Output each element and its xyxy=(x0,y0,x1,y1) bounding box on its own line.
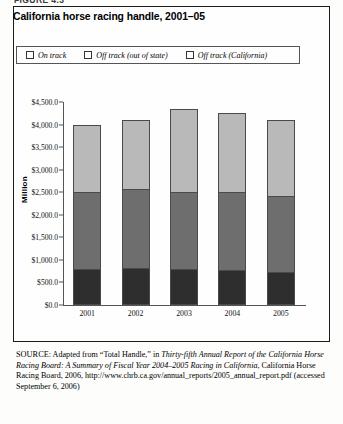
source-text-1: Adapted from “Total Handle,” in xyxy=(51,350,161,359)
bar-segment xyxy=(73,269,101,305)
figure-number-text: FIGURE 4.3 xyxy=(14,0,94,5)
x-axis-tick-label: 2005 xyxy=(251,309,311,318)
y-axis-tick-mark xyxy=(59,237,63,238)
legend-item-label: On track xyxy=(38,51,66,60)
chart-legend: On track Off track (out of state) Off tr… xyxy=(16,46,300,64)
source-note: SOURCE: Adapted from “Total Handle,” in … xyxy=(16,350,328,392)
y-axis-tick-mark xyxy=(59,214,63,215)
source-label: SOURCE: xyxy=(16,350,51,359)
bar-segment xyxy=(73,125,101,193)
bar-segment xyxy=(218,270,246,305)
legend-swatch-icon xyxy=(186,51,194,59)
bar-segment xyxy=(170,109,198,192)
bar-group xyxy=(267,120,295,305)
bar-group xyxy=(218,113,246,305)
y-axis-tick-mark xyxy=(59,169,63,170)
legend-item-label: Off track (California) xyxy=(198,51,267,60)
y-axis-tick-mark xyxy=(59,305,63,306)
legend-swatch-icon xyxy=(84,51,92,59)
bar-segment xyxy=(218,192,246,270)
bar-segment xyxy=(267,196,295,272)
bar-segment xyxy=(267,120,295,196)
legend-item-off-track-california: Off track (California) xyxy=(186,51,267,60)
chart-title: California horse racing handle, 2001–05 xyxy=(13,11,205,22)
legend-item-label: Off track (out of state) xyxy=(96,51,168,60)
bar-segment xyxy=(122,189,150,267)
y-axis-tick-mark xyxy=(59,259,63,260)
y-axis-title: Million xyxy=(20,176,29,203)
figure-number-label: FIGURE 4.3 xyxy=(14,0,94,5)
x-axis-line xyxy=(63,305,306,306)
bar-segment xyxy=(73,192,101,269)
bar-group xyxy=(122,120,150,305)
figure-root: FIGURE 4.3 California horse racing handl… xyxy=(0,0,343,424)
y-axis-tick-mark xyxy=(59,102,63,103)
bar-segment xyxy=(218,113,246,191)
bar-segment xyxy=(122,268,150,305)
legend-item-off-track-out-of-state: Off track (out of state) xyxy=(84,51,168,60)
legend-item-on-track: On track xyxy=(26,51,66,60)
bar-segment xyxy=(170,269,198,305)
bar-segment xyxy=(170,192,198,269)
plot-area: $4,500.0$4,000.0$3,500.0$3,000.0$2,500.0… xyxy=(63,102,305,305)
bar-group xyxy=(170,109,198,305)
legend-swatch-icon xyxy=(26,51,34,59)
bar-segment xyxy=(122,120,150,189)
y-axis-tick-mark xyxy=(59,124,63,125)
y-axis-tick-mark xyxy=(59,282,63,283)
bar-group xyxy=(73,125,101,305)
y-axis-tick-mark xyxy=(59,192,63,193)
y-axis-tick-mark xyxy=(59,147,63,148)
bar-segment xyxy=(267,272,295,305)
